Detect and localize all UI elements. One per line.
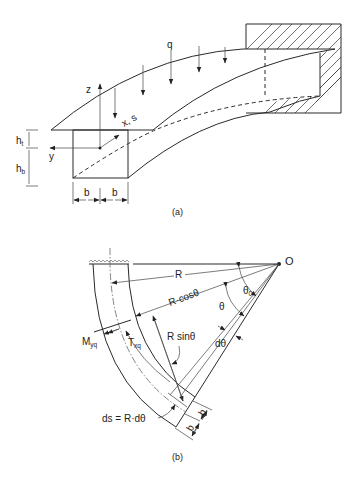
width-1-label: b [196, 407, 209, 418]
h-top-label: ht [16, 135, 24, 147]
arc-length-label: ds = R·dθ [102, 413, 146, 424]
r-sin-label: R sinθ [167, 331, 196, 342]
width-left-label: b [84, 187, 90, 198]
moment-label: Myq [82, 336, 98, 349]
figure-b: O R R R·cosθ R sinθ θ0 [82, 248, 294, 462]
figure-a: q z y x, s ht hb [16, 20, 358, 217]
arc-length-annotation: ds = R·dθ [102, 405, 175, 424]
z-axis-label: z [86, 84, 91, 95]
y-axis-label: y [49, 151, 54, 162]
x-s-axis-label: x, s [120, 111, 139, 128]
load-label-q: q [167, 39, 173, 50]
theta-label: θ [219, 301, 225, 312]
fixed-support [89, 260, 129, 264]
h-bottom-label: hb [16, 163, 26, 175]
torque-label: Txq [128, 337, 141, 350]
width-dimensions: b b [73, 182, 128, 204]
fixed-wall [236, 20, 358, 118]
angle-annotations: θ0 θ dθ [215, 267, 256, 349]
dtheta-label: dθ [215, 338, 227, 349]
caption-b: (b) [172, 452, 183, 462]
r-cos-label: R·cosθ [167, 287, 201, 308]
distributed-load: q [115, 39, 225, 118]
width-right-label: b [112, 187, 118, 198]
curved-beam-diagram: q z y x, s ht hb [0, 0, 359, 482]
height-dimensions: ht hb [16, 130, 38, 186]
radius-label-R: R [175, 269, 182, 280]
center-label-O: O [285, 255, 294, 267]
centroid-dot [99, 147, 102, 150]
caption-a: (a) [172, 207, 183, 217]
theta0-label: θ0 [243, 285, 253, 297]
internal-forces: Myq Txq [82, 329, 170, 382]
coordinate-axes: z y x, s [49, 84, 138, 162]
